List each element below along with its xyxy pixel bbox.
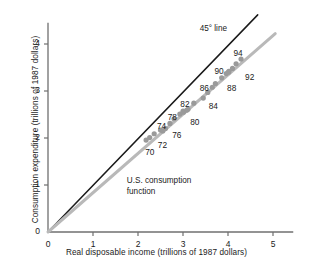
year-label-94: 94 [233,48,242,58]
consumption-function-label-line1: U.S. consumption [127,176,192,187]
year-label-82: 82 [180,99,189,109]
year-label-86: 86 [200,83,209,93]
consumption-function-label-line2: function [127,187,192,198]
forty-five-degree-line [48,15,258,232]
data-point-91 [226,70,231,75]
y-axis-title: Consumption expenditure (trillions of 19… [31,15,40,245]
forty-five-degree-line-label: 45° line [200,24,227,35]
data-point-72 [152,131,157,136]
consumption-function-scatter-plot [0,0,313,267]
year-label-78: 78 [168,112,177,122]
data-point-93 [234,61,239,66]
consumption-function-label: U.S. consumption function [127,176,192,197]
year-label-74: 74 [157,121,166,131]
data-point-83 [191,101,196,106]
x-axis-title: Real disposable income (trillions of 198… [0,248,313,257]
data-point-84 [201,95,206,100]
data-point-92 [230,66,235,71]
chart-figure: 01234501234 70727476788082848688909294 4… [0,0,313,267]
year-label-70: 70 [145,147,154,157]
year-label-90: 90 [215,66,224,76]
year-label-92: 92 [245,72,254,82]
year-label-84: 84 [209,101,218,111]
year-label-76: 76 [172,130,181,140]
year-label-88: 88 [227,83,236,93]
year-label-72: 72 [158,140,167,150]
year-label-80: 80 [190,117,199,127]
data-point-87 [213,81,218,86]
data-point-71 [147,135,152,140]
